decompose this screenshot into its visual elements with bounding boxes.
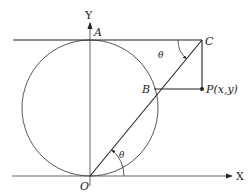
point-c-label: C — [205, 35, 214, 48]
point-p-dot — [200, 87, 204, 91]
y-axis-label: Y — [84, 9, 93, 22]
origin-label: O — [80, 180, 89, 193]
diagram-canvas: Y X O A B C P(x,y) θ θ — [0, 0, 252, 195]
point-p-label: P(x,y) — [205, 83, 238, 96]
line-oc — [90, 40, 202, 176]
angle-top-label: θ — [158, 50, 164, 60]
point-b-label: B — [141, 83, 150, 96]
angle-arc-top — [178, 40, 187, 59]
point-a-label: A — [93, 26, 102, 39]
x-axis-label: X — [236, 170, 244, 183]
angle-bottom-label: θ — [119, 150, 125, 160]
